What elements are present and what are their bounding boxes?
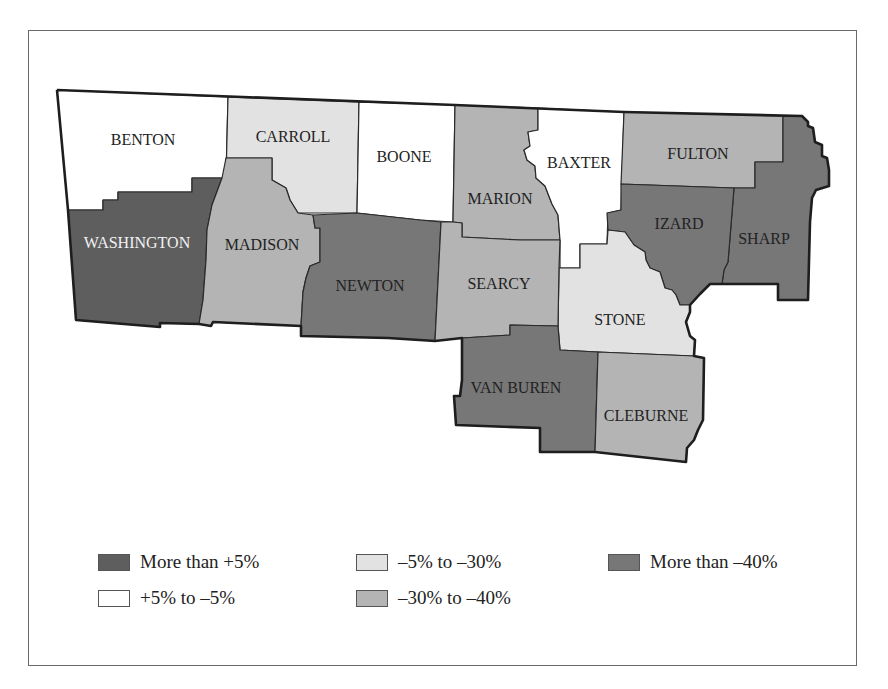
label-newton: NEWTON	[335, 277, 404, 294]
legend-label: –5% to –30%	[398, 551, 501, 573]
label-benton: BENTON	[111, 131, 176, 148]
legend-swatch-mid	[356, 590, 388, 607]
legend-item-minus5-to-minus30: –5% to –30%	[356, 551, 501, 573]
legend-item-more-than-minus40: More than –40%	[608, 551, 778, 573]
label-baxter: BAXTER	[547, 154, 611, 171]
legend-swatch-light	[356, 554, 388, 571]
legend-label: More than –40%	[650, 551, 778, 573]
legend-swatch-dark	[608, 554, 640, 571]
label-carroll: CARROLL	[256, 128, 331, 145]
label-sharp: SHARP	[738, 230, 790, 247]
label-searcy: SEARCY	[467, 275, 531, 292]
label-cleburne: CLEBURNE	[604, 407, 688, 424]
label-stone: STONE	[594, 311, 645, 328]
label-washington: WASHINGTON	[84, 234, 191, 251]
legend-label: +5% to –5%	[140, 587, 235, 609]
label-fulton: FULTON	[667, 145, 729, 162]
legend-swatch-white	[98, 590, 130, 607]
label-marion: MARION	[468, 190, 533, 207]
label-izard: IZARD	[655, 215, 704, 232]
label-vanburen: VAN BUREN	[471, 379, 562, 396]
legend-item-more-than-plus5: More than +5%	[98, 551, 259, 573]
legend-label: –30% to –40%	[398, 587, 511, 609]
legend-swatch-darkest	[98, 554, 130, 571]
legend-label: More than +5%	[140, 551, 259, 573]
label-boone: BOONE	[376, 148, 431, 165]
label-madison: MADISON	[225, 236, 300, 253]
legend-item-minus30-to-minus40: –30% to –40%	[356, 587, 511, 609]
legend-item-plus5-to-minus5: +5% to –5%	[98, 587, 235, 609]
legend: More than +5% –5% to –30% More than –40%…	[98, 551, 838, 621]
